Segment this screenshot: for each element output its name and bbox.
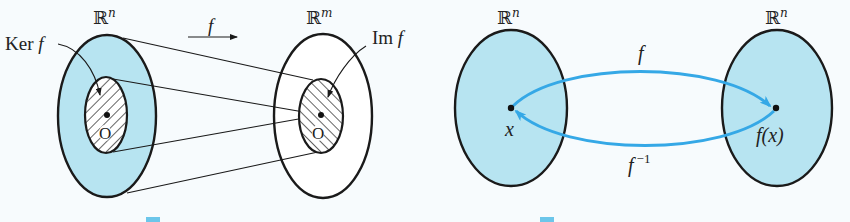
point-x bbox=[508, 105, 514, 111]
left-space-label: ℝn bbox=[497, 6, 520, 28]
kernel-image-diagram: O O Ker f Im f ℝn ℝm f bbox=[5, 6, 406, 198]
right-space-label: ℝn bbox=[765, 6, 788, 28]
domain-space-label: ℝn bbox=[93, 6, 116, 28]
forward-map-label: f bbox=[638, 42, 646, 65]
origin-dot-codomain bbox=[318, 112, 324, 118]
origin-label-domain: O bbox=[99, 124, 111, 143]
inverse-map-label: f−1 bbox=[628, 151, 650, 177]
origin-label-codomain: O bbox=[312, 124, 324, 143]
codomain-space-label: ℝm bbox=[306, 6, 332, 28]
image-label: Im f bbox=[372, 27, 406, 48]
point-fx bbox=[773, 105, 779, 111]
origin-dot-domain bbox=[104, 112, 110, 118]
point-fx-label: f(x) bbox=[756, 124, 784, 147]
point-x-label: x bbox=[504, 118, 514, 140]
map-label: f bbox=[208, 15, 216, 36]
figure-stage: O O Ker f Im f ℝn ℝm f bbox=[0, 0, 850, 222]
kernel-label: Ker f bbox=[5, 33, 46, 54]
inverse-map-diagram: ℝn ℝn f f−1 x f(x) bbox=[455, 6, 832, 186]
caption-marker-right bbox=[540, 217, 554, 222]
caption-marker-left bbox=[146, 217, 160, 222]
